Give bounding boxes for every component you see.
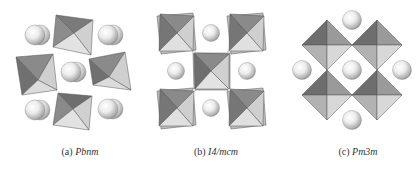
- caption-c: (c) Pm3m: [338, 146, 377, 157]
- octahedron-right: [89, 52, 131, 90]
- octahedron-center: [193, 53, 230, 90]
- octahedron-bottom-left: [157, 88, 196, 129]
- octahedron-top: [53, 15, 93, 55]
- octahedron-bottom-left: [302, 70, 352, 120]
- caption-c-label: (c): [338, 146, 349, 157]
- panel-c-pm3m: [293, 11, 412, 130]
- a-site-cations: [293, 11, 412, 130]
- panel-b-i4mcm: [157, 13, 266, 129]
- caption-b-label: (b): [194, 146, 206, 157]
- caption-a-label: (a): [62, 146, 73, 157]
- panel-a-pbnm: [16, 15, 131, 130]
- octahedron-bottom-right: [352, 70, 402, 120]
- octahedron-top-left: [157, 13, 196, 54]
- octahedron-top-left: [302, 20, 352, 70]
- caption-c-space-group: Pm3m: [352, 146, 378, 157]
- octahedron-bottom: [53, 93, 92, 130]
- caption-b-space-group: I4/mcm: [208, 146, 238, 157]
- octahedron-top-right: [352, 20, 402, 70]
- caption-a: (a) Pbnm: [62, 146, 99, 157]
- octahedron-bottom-right: [227, 88, 266, 129]
- octahedron-left: [16, 54, 57, 95]
- caption-b: (b) I4/mcm: [194, 146, 238, 157]
- caption-a-space-group: Pbnm: [75, 146, 98, 157]
- octahedron-top-right: [227, 13, 266, 54]
- perovskite-structure-figure: (a) Pbnm (b) I4/mcm (c) Pm3m: [0, 0, 420, 174]
